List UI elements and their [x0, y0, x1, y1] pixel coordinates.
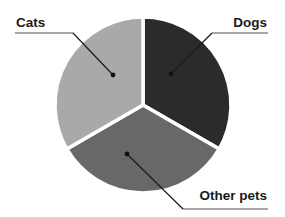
anchor-dot: [169, 72, 174, 77]
pie-chart: Cats Dogs Other pets: [0, 0, 285, 217]
label-dogs: Dogs: [233, 15, 267, 30]
pie-slices: [55, 17, 231, 193]
anchor-dot: [111, 73, 116, 78]
anchor-dot: [125, 152, 130, 157]
label-cats: Cats: [16, 15, 45, 30]
label-other-pets: Other pets: [199, 188, 267, 203]
